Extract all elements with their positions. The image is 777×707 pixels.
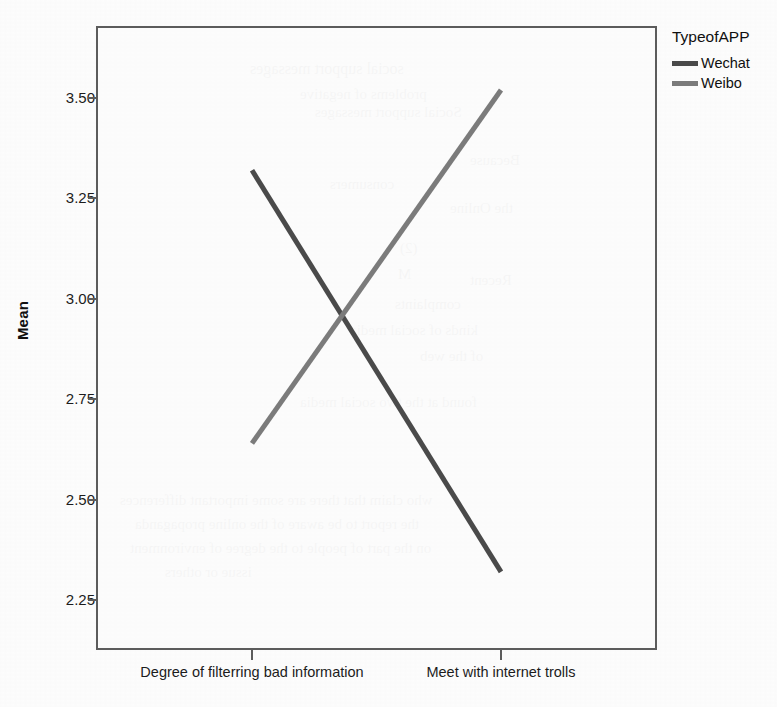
x-tick-mark [500,650,502,660]
y-axis-title: Mean [14,281,31,361]
legend-swatch-icon [672,81,698,86]
y-tick-label: 2.50 [35,492,95,507]
legend-item-wechat[interactable]: Wechat [672,55,777,71]
legend-swatch-icon [672,61,698,66]
y-tick-label: 2.75 [35,391,95,406]
legend-item-weibo[interactable]: Weibo [672,75,777,91]
y-tick-label: 3.00 [35,291,95,306]
x-tick-mark [251,650,253,660]
legend-title: TypeofAPP [672,28,777,46]
y-tick-mark [88,298,97,300]
plot-area [96,26,657,650]
y-tick-label: 3.25 [35,190,95,205]
y-tick-label: 3.50 [35,90,95,105]
y-tick-mark [88,197,97,199]
legend-item-label: Weibo [701,75,742,91]
scanned-figure-page: social support messagesproblems of negat… [0,0,777,707]
y-tick-mark [88,499,97,501]
y-tick-mark [88,398,97,400]
y-tick-mark [88,599,97,601]
legend-items: WechatWeibo [672,55,777,91]
legend-item-label: Wechat [701,55,750,71]
y-tick-mark [88,97,97,99]
legend: TypeofAPP WechatWeibo [672,28,777,95]
x-tick-label: Degree of filterring bad information [140,664,363,680]
x-tick-label: Meet with internet trolls [426,664,575,680]
y-tick-label: 2.25 [35,592,95,607]
